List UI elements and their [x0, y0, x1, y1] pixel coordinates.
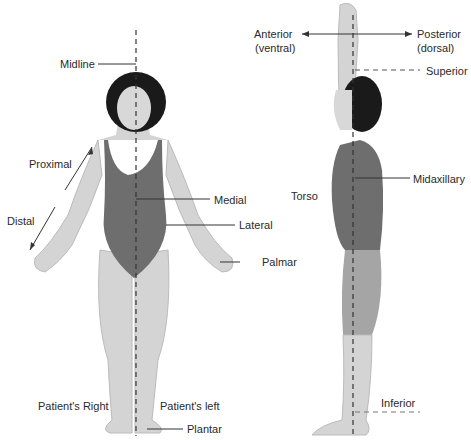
label-midline: Midline	[60, 58, 95, 71]
label-midaxillary: Midaxillary	[413, 173, 465, 186]
label-plantar: Plantar	[187, 423, 222, 436]
label-posterior-alt: (dorsal)	[417, 42, 454, 55]
label-distal: Distal	[7, 215, 35, 228]
label-posterior: Posterior	[417, 28, 461, 41]
front-figure	[34, 72, 232, 433]
label-medial: Medial	[214, 194, 246, 207]
label-anterior: Anterior	[254, 28, 293, 41]
label-torso: Torso	[291, 190, 318, 203]
label-anterior-alt: (ventral)	[255, 42, 295, 55]
label-inferior: Inferior	[381, 397, 415, 410]
side-figure	[312, 3, 383, 435]
label-superior: Superior	[426, 65, 468, 78]
label-proximal: Proximal	[29, 158, 72, 171]
label-palmar: Palmar	[262, 256, 297, 269]
label-patient-left: Patient's left	[160, 400, 220, 413]
label-patient-right: Patient's Right	[38, 400, 109, 413]
label-lateral: Lateral	[239, 219, 273, 232]
